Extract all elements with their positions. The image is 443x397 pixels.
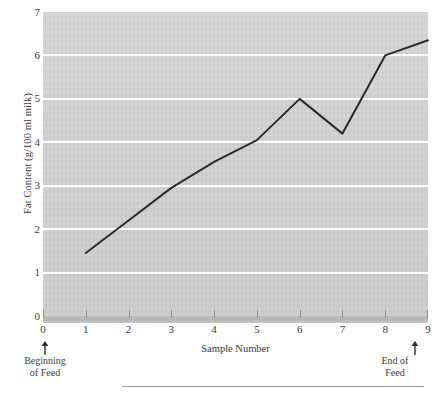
x-tick-mark [342, 310, 343, 318]
x-tick-label: 7 [332, 324, 352, 335]
y-tick-label: 4 [26, 137, 40, 148]
x-tick-label: 0 [33, 324, 53, 335]
y-tick-label: 7 [26, 7, 40, 18]
x-tick-mark [43, 310, 44, 318]
x-tick-mark [257, 310, 258, 318]
footer-rule [122, 386, 424, 387]
beginning-of-feed-line2: of Feed [2, 367, 88, 379]
x-axis-tick-labels: 0123456789 [43, 324, 428, 340]
x-axis-title: Sample Number [43, 343, 428, 354]
y-tick-label: 2 [26, 224, 40, 235]
x-tick-mark [385, 310, 386, 318]
x-tick-label: 9 [418, 324, 438, 335]
end-of-feed-line1: End of [353, 355, 437, 367]
figure-container: Fat Content (g/100 ml milk) 01234567 012… [0, 0, 443, 397]
y-axis-tick-labels: 01234567 [26, 0, 40, 397]
y-tick-label: 1 [26, 267, 40, 278]
x-tick-label: 1 [76, 324, 96, 335]
end-of-feed-line2: Feed [353, 367, 437, 379]
x-tick-mark [171, 310, 172, 318]
end-of-feed-up-arrow-icon [409, 341, 421, 355]
x-axis-tick-marks [43, 310, 428, 320]
x-tick-label: 2 [119, 324, 139, 335]
beginning-of-feed-line1: Beginning [2, 355, 88, 367]
y-tick-label: 3 [26, 180, 40, 191]
x-tick-label: 6 [290, 324, 310, 335]
x-tick-label: 8 [375, 324, 395, 335]
y-tick-label: 0 [26, 311, 40, 322]
x-tick-mark [86, 310, 87, 318]
x-tick-label: 5 [247, 324, 267, 335]
x-tick-mark [129, 310, 130, 318]
y-tick-label: 5 [26, 93, 40, 104]
data-series-line [43, 12, 428, 316]
x-tick-mark [214, 310, 215, 318]
plot-area [43, 12, 428, 316]
x-tick-label: 4 [204, 324, 224, 335]
beginning-of-feed-annotation: Beginning of Feed [2, 355, 88, 379]
x-tick-mark [300, 310, 301, 318]
y-tick-label: 6 [26, 50, 40, 61]
x-tick-label: 3 [161, 324, 181, 335]
x-tick-mark [427, 310, 428, 318]
beginning-of-feed-up-arrow-icon [39, 341, 51, 355]
end-of-feed-annotation: End of Feed [353, 355, 437, 379]
